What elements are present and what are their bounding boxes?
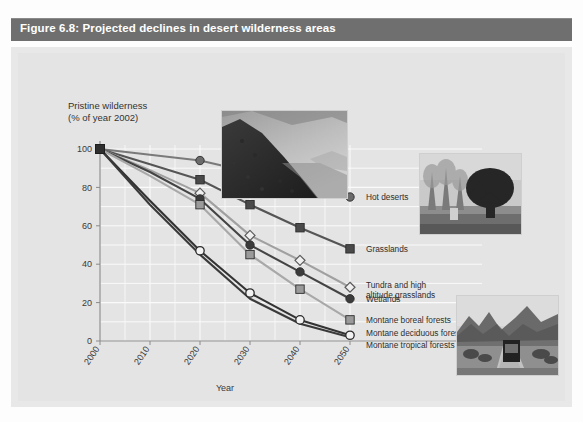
series-label: Tundra and high [366, 280, 427, 290]
series-label: Montane tropical forests [366, 340, 455, 350]
x-tick-label: 2050 [332, 344, 352, 366]
x-tick-label: 2020 [182, 344, 202, 366]
series-marker [246, 250, 254, 258]
series-label: Wetlands [366, 294, 400, 304]
series-label: Grasslands [366, 244, 408, 254]
x-tick-label: 2040 [282, 344, 302, 366]
series-marker [346, 316, 354, 324]
series-marker [346, 245, 354, 253]
series-marker [296, 285, 304, 293]
y-tick-label: 40 [82, 259, 92, 269]
series-marker [246, 289, 254, 297]
y-axis-ticks: 020406080100 [77, 144, 100, 346]
series-marker [296, 316, 304, 324]
series-marker [196, 247, 204, 255]
series-marker [346, 331, 354, 339]
x-axis-ticks: 200020102020203020402050 [82, 341, 352, 367]
series-marker [196, 156, 204, 164]
y-tick-label: 20 [82, 298, 92, 308]
series-marker [296, 268, 304, 276]
y-axis-title-line2: (% of year 2002) [68, 112, 138, 123]
series-marker [196, 200, 204, 208]
y-tick-label: 0 [87, 336, 92, 346]
series-marker [346, 295, 354, 303]
desert-road-photo [456, 295, 559, 376]
x-tick-label: 2000 [82, 344, 102, 366]
figure-title-bar: Figure 6.8: Projected declines in desert… [11, 18, 572, 41]
y-tick-label: 100 [77, 144, 92, 154]
figure-title: Figure 6.8: Projected declines in desert… [20, 22, 336, 34]
x-tick-label: 2010 [132, 344, 152, 366]
series-marker [246, 200, 254, 208]
mountain-slope-photo [221, 110, 348, 199]
desert-tree-photo [419, 153, 522, 235]
y-tick-label: 60 [82, 221, 92, 231]
x-tick-label: 2030 [232, 344, 252, 366]
y-tick-label: 80 [82, 183, 92, 193]
y-axis-title-line1: Pristine wilderness [68, 100, 147, 111]
chart-inner-area: 020406080100 200020102020203020402050 Ho… [18, 53, 565, 401]
series-label: Montane boreal forests [366, 315, 451, 325]
chart-panel: 020406080100 200020102020203020402050 Ho… [11, 47, 572, 407]
series-marker [196, 176, 204, 184]
x-axis-title: Year [216, 383, 234, 393]
figure-container: Figure 6.8: Projected declines in desert… [0, 0, 583, 422]
series-label: Montane deciduous forests [366, 328, 466, 338]
series-marker [246, 241, 254, 249]
series-label: Hot deserts [366, 192, 408, 202]
series-marker [296, 224, 304, 232]
origin-marker [96, 145, 105, 154]
